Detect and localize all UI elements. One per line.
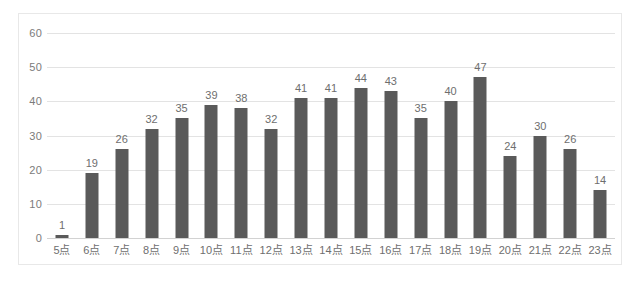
- bar[interactable]: [354, 88, 367, 238]
- bar[interactable]: [265, 129, 278, 238]
- bar-slot: 47: [466, 33, 496, 238]
- x-tick-label: 22点: [555, 243, 585, 257]
- bar-value-label: 44: [355, 73, 367, 84]
- bar-value-label: 24: [504, 141, 516, 152]
- bar[interactable]: [235, 108, 248, 238]
- axis-baseline: [47, 238, 615, 239]
- bar-value-label: 1: [59, 220, 65, 231]
- x-axis: 5点6点7点8点9点10点11点12点13点14点15点16点17点18点19点…: [47, 243, 615, 261]
- bar[interactable]: [534, 136, 547, 239]
- y-tick-label: 50: [18, 62, 42, 73]
- bar-value-label: 41: [325, 83, 337, 94]
- bar[interactable]: [474, 77, 487, 238]
- x-tick-label: 14点: [316, 243, 346, 257]
- y-tick-label: 40: [18, 96, 42, 107]
- bar-value-label: 32: [145, 114, 157, 125]
- bar[interactable]: [414, 118, 427, 238]
- bar[interactable]: [145, 129, 158, 238]
- bar[interactable]: [55, 235, 68, 238]
- bar-slot: 44: [346, 33, 376, 238]
- bar-value-label: 35: [175, 103, 187, 114]
- bar-value-label: 47: [474, 62, 486, 73]
- x-tick-label: 5点: [47, 243, 77, 257]
- x-tick-label: 17点: [406, 243, 436, 257]
- bar[interactable]: [175, 118, 188, 238]
- x-tick-label: 20点: [495, 243, 525, 257]
- x-tick-label: 11点: [226, 243, 256, 257]
- x-tick-label: 8点: [137, 243, 167, 257]
- bar-value-label: 40: [444, 86, 456, 97]
- bar-chart: 0102030405060 11926323539383241414443354…: [0, 0, 638, 281]
- bar-slot: 41: [286, 33, 316, 238]
- bar-value-label: 43: [385, 76, 397, 87]
- y-tick-label: 60: [18, 28, 42, 39]
- y-tick-label: 10: [18, 199, 42, 210]
- bar-value-label: 35: [415, 103, 427, 114]
- x-tick-label: 18点: [436, 243, 466, 257]
- x-tick-label: 6点: [77, 243, 107, 257]
- bar-slot: 40: [436, 33, 466, 238]
- bar[interactable]: [444, 101, 457, 238]
- bar[interactable]: [115, 149, 128, 238]
- bar-slot: 32: [256, 33, 286, 238]
- y-tick-label: 0: [18, 233, 42, 244]
- bar[interactable]: [324, 98, 337, 238]
- x-tick-label: 19点: [466, 243, 496, 257]
- x-tick-label: 15点: [346, 243, 376, 257]
- bar[interactable]: [295, 98, 308, 238]
- bar-slot: 39: [196, 33, 226, 238]
- bar-slot: 30: [525, 33, 555, 238]
- x-tick-label: 16点: [376, 243, 406, 257]
- bar-slot: 26: [555, 33, 585, 238]
- y-tick-label: 20: [18, 165, 42, 176]
- bar-slot: 1: [47, 33, 77, 238]
- bar-slot: 43: [376, 33, 406, 238]
- x-tick-label: 12点: [256, 243, 286, 257]
- y-tick-label: 30: [18, 131, 42, 142]
- bar-slot: 35: [406, 33, 436, 238]
- bar-slot: 38: [226, 33, 256, 238]
- bar-slot: 41: [316, 33, 346, 238]
- bar-value-label: 30: [534, 121, 546, 132]
- bar-value-label: 19: [86, 158, 98, 169]
- x-tick-label: 10点: [196, 243, 226, 257]
- x-tick-label: 9点: [167, 243, 197, 257]
- x-tick-label: 21点: [525, 243, 555, 257]
- bar-slot: 19: [77, 33, 107, 238]
- bar[interactable]: [85, 173, 98, 238]
- bar-value-label: 32: [265, 114, 277, 125]
- bar-value-label: 41: [295, 83, 307, 94]
- bar-value-label: 39: [205, 90, 217, 101]
- bar-slot: 32: [137, 33, 167, 238]
- plot-area: 1192632353938324141444335404724302614: [47, 33, 615, 238]
- bar[interactable]: [564, 149, 577, 238]
- bar[interactable]: [504, 156, 517, 238]
- x-tick-label: 7点: [107, 243, 137, 257]
- bar[interactable]: [594, 190, 607, 238]
- bar-value-label: 14: [594, 175, 606, 186]
- bar-value-label: 26: [564, 134, 576, 145]
- bar[interactable]: [384, 91, 397, 238]
- bar-slot: 24: [495, 33, 525, 238]
- bar-value-label: 26: [116, 134, 128, 145]
- x-tick-label: 23点: [585, 243, 615, 257]
- bar[interactable]: [205, 105, 218, 238]
- bar-slot: 26: [107, 33, 137, 238]
- bar-slot: 14: [585, 33, 615, 238]
- bar-value-label: 38: [235, 93, 247, 104]
- x-tick-label: 13点: [286, 243, 316, 257]
- y-axis: 0102030405060: [18, 33, 42, 238]
- bar-slot: 35: [167, 33, 197, 238]
